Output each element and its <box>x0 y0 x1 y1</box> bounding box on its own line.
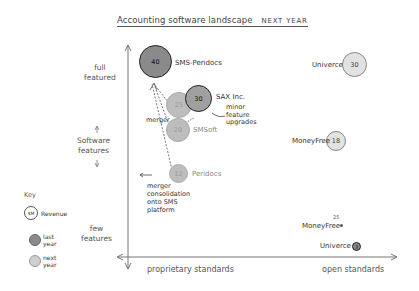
label-peridocs: Peridocs <box>192 170 221 179</box>
bubble-sax-next-year: 30 <box>185 85 212 112</box>
bubble-value: 3 <box>355 244 358 250</box>
key-label-line: last <box>43 233 56 240</box>
label-moneyfree-bottom: MoneyFree <box>302 222 340 231</box>
y-label-full-featured: full featured <box>84 63 116 83</box>
y-label-line: featured <box>84 73 116 83</box>
annotation-merger: merger <box>146 116 170 125</box>
key-next-year-swatch <box>29 255 41 267</box>
y-label-line: features <box>81 234 112 244</box>
key-next-year-label: next year <box>43 254 56 268</box>
x-label-proprietary: proprietary standards <box>147 265 234 274</box>
y-label-line: few <box>81 224 112 234</box>
bubble-value: 18 <box>332 137 340 145</box>
annotation-line: upgrades <box>226 119 257 127</box>
key-label-line: year <box>43 240 56 247</box>
key-last-year-swatch <box>29 234 41 246</box>
label-sms-peridocs: SMS-Peridocs <box>175 59 222 68</box>
bubble-univerce-last-year: 3 <box>352 242 361 251</box>
value-moneyfree-bottom: 25 <box>333 214 339 220</box>
y-label-few-features: few features <box>81 224 112 244</box>
bubble-value: 30 <box>350 61 358 69</box>
key-last-year-label: last year <box>43 233 56 247</box>
bubble-moneyfree-last-year <box>340 224 343 227</box>
annotation-consolidation: merger consolidation onto SMS platform <box>147 182 190 214</box>
label-univerce-bottom: Univerce <box>320 242 351 251</box>
key-revenue-sample: $M <box>28 211 35 216</box>
bubble-value: 12 <box>174 170 182 178</box>
key-revenue-label: Revenue <box>41 209 67 218</box>
label-univerce-top: Univerce <box>312 61 343 70</box>
bubble-value: 30 <box>194 95 202 103</box>
label-smsoft: SMSoft <box>193 126 217 135</box>
key-label-line: year <box>43 261 56 268</box>
annotation-minor-upgrades: minor feature upgrades <box>226 104 257 127</box>
y-label-software-features: Software features <box>77 136 110 156</box>
bubble-value: 40 <box>151 58 159 66</box>
annotation-line: merger <box>147 182 190 190</box>
key-revenue-swatch: $M <box>24 206 38 220</box>
bubble-sms-peridocs: 40 <box>139 45 172 78</box>
label-moneyfree-top: MoneyFree <box>292 137 330 146</box>
bubble-value: 20 <box>174 126 182 134</box>
key-title: Key <box>24 191 36 199</box>
key-label-line: next <box>43 254 56 261</box>
annotation-line: onto SMS <box>147 198 190 206</box>
y-label-line: full <box>84 63 116 73</box>
y-label-line: Software <box>77 136 110 146</box>
annotation-line: platform <box>147 206 190 214</box>
label-sax: SAX Inc. <box>216 93 245 102</box>
x-label-open: open standards <box>322 265 384 274</box>
bubble-univerce-next-year: 30 <box>342 52 367 77</box>
bubble-value: 25 <box>175 101 183 109</box>
annotation-line: consolidation <box>147 190 190 198</box>
bubble-peridocs: 12 <box>169 164 188 183</box>
y-label-line: features <box>77 146 110 156</box>
